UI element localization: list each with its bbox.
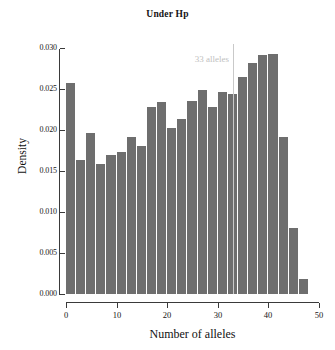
histogram-bar	[76, 160, 86, 294]
x-axis-title: Number of alleles	[66, 327, 319, 342]
histogram-bar	[187, 101, 197, 294]
x-axis-tick	[218, 303, 219, 308]
y-axis-tick-label: 0.000	[39, 289, 57, 298]
y-axis-tick-label: 0.025	[39, 84, 57, 93]
histogram-bar	[198, 90, 208, 294]
y-axis-tick	[60, 171, 65, 172]
x-axis-tick-label: 30	[203, 310, 233, 320]
histogram-bar	[106, 155, 116, 294]
y-axis-tick	[60, 48, 65, 49]
x-axis-tick-label: 50	[304, 310, 334, 320]
y-axis-tick	[60, 212, 65, 213]
histogram-bars	[66, 44, 319, 294]
observed-value-label: 33 alleles	[171, 54, 229, 64]
x-axis-tick	[268, 303, 269, 308]
plot-area	[66, 44, 319, 294]
histogram-bar	[96, 164, 106, 294]
observed-value-line-icon	[233, 44, 234, 294]
y-axis-tick-label: 0.030	[39, 43, 57, 52]
y-axis-tick-label: 0.015	[39, 166, 57, 175]
histogram-bar	[167, 128, 177, 294]
x-axis-tick	[167, 303, 168, 308]
histogram-bar	[299, 279, 309, 294]
y-axis-tick	[60, 294, 65, 295]
histogram-bar	[127, 137, 137, 294]
x-axis-tick	[66, 303, 67, 308]
histogram-bar	[66, 83, 76, 294]
histogram-bar	[279, 137, 289, 294]
chart-title: Under Hp	[0, 9, 335, 19]
histogram-bar	[147, 107, 157, 294]
y-axis-tick	[60, 89, 65, 90]
y-axis-title: Density	[16, 111, 28, 201]
histogram-bar	[258, 55, 268, 294]
histogram-bar	[137, 146, 147, 294]
histogram-bar	[86, 133, 96, 294]
x-axis-tick-label: 20	[152, 310, 182, 320]
x-axis-tick-label: 10	[102, 310, 132, 320]
y-axis-tick	[60, 130, 65, 131]
x-axis-line	[66, 302, 319, 303]
y-axis-tick-label: 0.020	[39, 125, 57, 134]
x-axis-tick	[117, 303, 118, 308]
x-axis-tick	[319, 303, 320, 308]
histogram-bar	[157, 102, 167, 294]
histogram-bar	[289, 228, 299, 294]
histogram-bar	[248, 63, 258, 294]
histogram-figure: Under Hp Density 0.0000.0050.0100.0150.0…	[0, 0, 335, 350]
histogram-bar	[208, 107, 218, 294]
y-axis-line	[59, 49, 60, 295]
histogram-bar	[117, 152, 127, 294]
histogram-bar	[177, 119, 187, 294]
y-axis-tick-label: 0.005	[39, 248, 57, 257]
histogram-bar	[238, 77, 248, 294]
y-axis-tick-label: 0.010	[39, 207, 57, 216]
histogram-bar	[268, 54, 278, 294]
x-axis-tick-label: 0	[51, 310, 81, 320]
y-axis-tick	[60, 253, 65, 254]
x-axis-tick-label: 40	[253, 310, 283, 320]
histogram-bar	[218, 92, 228, 294]
